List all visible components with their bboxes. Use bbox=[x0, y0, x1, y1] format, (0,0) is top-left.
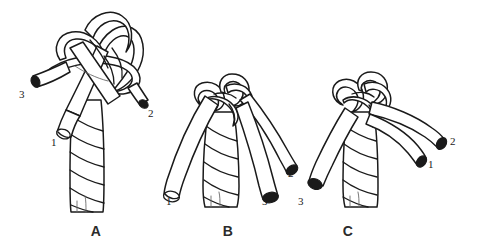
panel-b-group: B 1 2 3 bbox=[163, 74, 300, 239]
panel-b-caption: B bbox=[223, 223, 234, 239]
panel-c-label-2: 2 bbox=[450, 135, 456, 147]
panel-a-label-1: 1 bbox=[51, 136, 57, 148]
panel-c-group: C 3 2 1 bbox=[298, 72, 456, 239]
knot-diagram-canvas: A 3 1 2 bbox=[0, 0, 477, 252]
panel-b-label-3: 3 bbox=[262, 195, 268, 207]
panel-c-label-3: 3 bbox=[298, 195, 304, 207]
panel-a-strand-end-3 bbox=[29, 62, 70, 89]
panel-a-label-3: 3 bbox=[19, 88, 25, 100]
knot-illustration-figure: A 3 1 2 bbox=[0, 0, 477, 252]
panel-a-caption: A bbox=[91, 223, 102, 239]
panel-c-caption: C bbox=[343, 223, 354, 239]
panel-a-strand-end-2 bbox=[128, 83, 150, 110]
panel-b-label-1: 1 bbox=[166, 195, 172, 207]
panel-a-group: A 3 1 2 bbox=[19, 12, 154, 239]
panel-b-label-2: 2 bbox=[288, 167, 294, 179]
panel-c-label-1: 1 bbox=[428, 158, 434, 170]
panel-a-label-2: 2 bbox=[148, 107, 154, 119]
